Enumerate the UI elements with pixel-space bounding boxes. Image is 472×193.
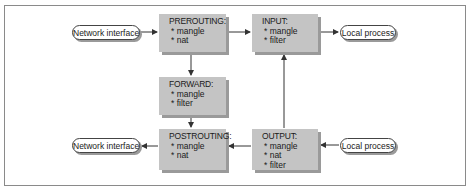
forward-chain: FORWARD: * mangle * filter <box>159 77 226 115</box>
prerouting-chain: PREROUTING: * mangle * nat <box>159 14 226 52</box>
table-item: * filter <box>262 161 318 171</box>
output-chain: OUTPUT: * mangle * nat * filter <box>252 129 318 170</box>
network-interface-in: Network interface <box>72 25 140 40</box>
table-item: * filter <box>169 99 226 109</box>
table-item: * nat <box>169 36 226 46</box>
postrouting-chain: POSTROUTING: * mangle * nat <box>159 129 226 170</box>
local-process-out: Local process <box>340 138 396 153</box>
table-item: * filter <box>262 36 318 46</box>
connector-lines <box>0 0 472 193</box>
network-interface-out: Network interface <box>72 138 140 153</box>
table-item: * nat <box>169 151 226 161</box>
input-chain: INPUT: * mangle * filter <box>252 14 318 52</box>
local-process-in: Local process <box>340 25 396 40</box>
